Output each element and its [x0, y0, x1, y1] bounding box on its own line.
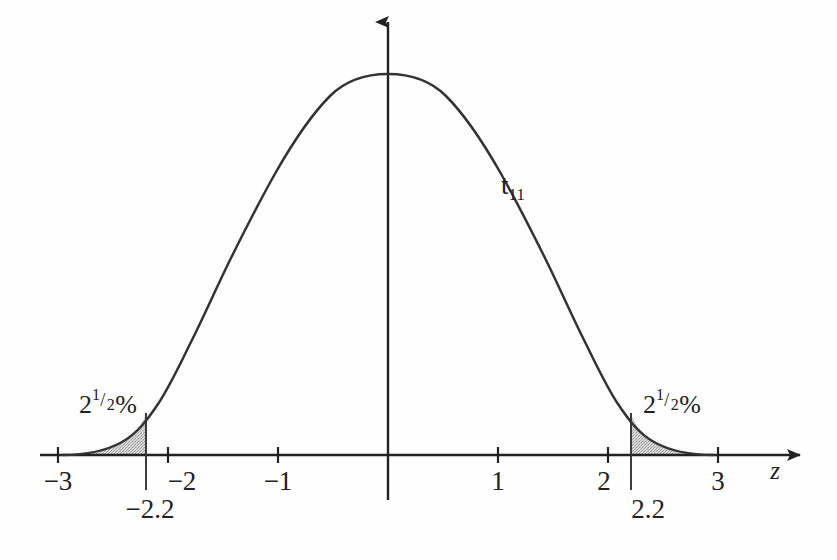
- critical-value-label-left: −2.2: [126, 496, 175, 523]
- x-tick-label--2: −2: [168, 468, 197, 495]
- percent-sign: %: [115, 390, 137, 419]
- fraction-denominator: 2: [107, 397, 115, 413]
- one-half-fraction: 1/2: [92, 397, 115, 413]
- percent-whole-part: 2: [79, 390, 92, 419]
- x-tick-label--1: −1: [264, 468, 293, 495]
- x-axis-name: z: [770, 458, 780, 483]
- fraction-denominator: 2: [671, 397, 679, 413]
- curve-label: t11: [501, 172, 525, 204]
- x-tick-label-2: 2: [597, 468, 611, 495]
- fraction-numerator: 1: [656, 387, 664, 403]
- t-distribution-figure: −3 −2 −1 1 2 3 −2.2 2.2 z 21/2% 21/2% t1…: [0, 0, 837, 560]
- one-half-fraction: 1/2: [656, 397, 679, 413]
- x-tick-label-1: 1: [491, 468, 505, 495]
- x-tick-label-3: 3: [711, 468, 725, 495]
- curve-label-subscript: 11: [509, 185, 525, 204]
- left-tail-percent-label: 21/2%: [79, 392, 137, 418]
- percent-sign: %: [679, 390, 701, 419]
- critical-value-label-right: 2.2: [631, 496, 665, 523]
- percent-whole-part: 2: [643, 390, 656, 419]
- fraction-solidus: /: [100, 391, 105, 409]
- curve-label-base: t: [501, 170, 509, 200]
- fraction-numerator: 1: [92, 387, 100, 403]
- right-tail-percent-label: 21/2%: [643, 392, 701, 418]
- fraction-solidus: /: [664, 391, 669, 409]
- x-tick-label--3: −3: [44, 468, 73, 495]
